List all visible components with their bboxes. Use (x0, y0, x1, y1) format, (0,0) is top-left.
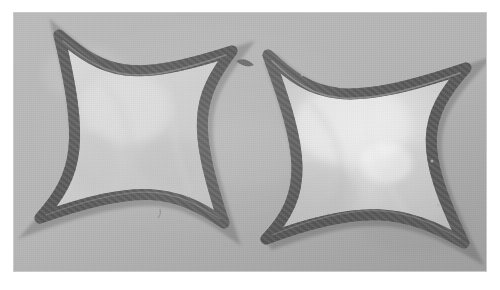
right-star-speck-3 (301, 74, 304, 77)
photo-canvas (14, 13, 486, 271)
photo-print (14, 13, 486, 271)
photograph-stage: Grayscale photograph of two four-pointed… (0, 0, 500, 290)
right-star-speck-2 (437, 204, 440, 207)
right-star-speck-1 (430, 159, 433, 162)
